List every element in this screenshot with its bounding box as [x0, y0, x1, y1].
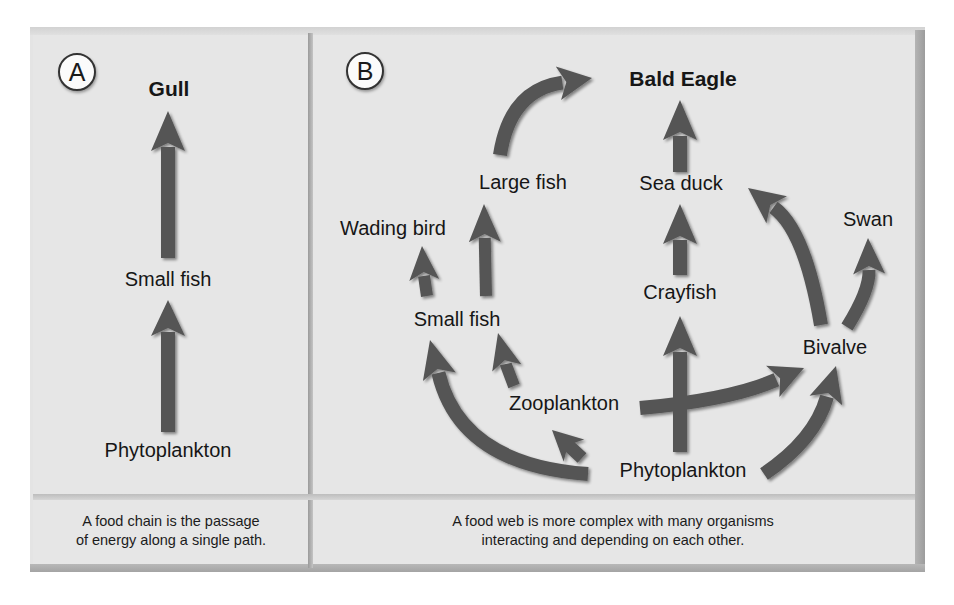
- panel-b-badge: B: [346, 52, 384, 90]
- arrow-zoo-to-smallfish-shaft: [506, 364, 514, 386]
- node-small-fish-b: Small fish: [414, 308, 501, 331]
- arrow-crayfish-to-seaduck-head: [663, 204, 697, 244]
- caption-b-line-1: A food web is more complex with many org…: [452, 512, 774, 531]
- arrow-phyto-to-zoo-shaft: [570, 447, 582, 458]
- node-large-fish: Large fish: [479, 171, 567, 194]
- caption-b-line-2: interacting and depending on each other.: [452, 531, 774, 550]
- arrow-phyto-to-crayfish-head: [663, 316, 697, 356]
- node-bivalve: Bivalve: [803, 336, 867, 359]
- node-swan: Swan: [843, 208, 893, 231]
- arrow-zoo-to-bivalve-shaft: [640, 380, 776, 408]
- arrow-bivalve-to-swan-head: [853, 238, 885, 274]
- caption-food-chain: A food chain is the passage of energy al…: [76, 512, 266, 550]
- node-phytoplankton-a: Phytoplankton: [105, 439, 232, 462]
- arrow-smallfish-to-largefish-head: [469, 204, 501, 242]
- caption-a-line-1: A food chain is the passage: [76, 512, 266, 531]
- arrow-smallfish-to-wadingbird-shaft: [424, 276, 427, 296]
- arrow-phyto-to-bivalve-shaft: [764, 397, 827, 474]
- node-bald-eagle: Bald Eagle: [629, 67, 736, 91]
- caption-a-line-2: of energy along a single path.: [76, 531, 266, 550]
- arrow-phyto-to-smallfish-b-shaft: [438, 373, 588, 474]
- node-gull: Gull: [149, 77, 190, 101]
- arrow-bivalve-to-seaduck-shaft: [773, 207, 821, 325]
- panel-a-badge-letter: A: [69, 58, 86, 87]
- node-sea-duck: Sea duck: [639, 172, 722, 195]
- arrow-phyto-to-smallfish-a-head: [151, 300, 185, 336]
- caption-food-web: A food web is more complex with many org…: [452, 512, 774, 550]
- node-small-fish-a: Small fish: [125, 268, 212, 291]
- panel-a-badge: A: [58, 53, 96, 91]
- arrow-seaduck-to-eagle-head: [663, 100, 697, 140]
- panel-b-badge-letter: B: [357, 57, 374, 86]
- node-wading-bird: Wading bird: [340, 217, 446, 240]
- node-phytoplankton-b: Phytoplankton: [620, 459, 747, 482]
- arrow-largefish-to-eagle-shaft: [500, 83, 562, 155]
- arrow-bivalve-to-swan-shaft: [847, 270, 869, 327]
- arrow-smallfish-to-largefish-shaft: [485, 238, 486, 296]
- node-zooplankton: Zooplankton: [509, 392, 619, 415]
- node-crayfish: Crayfish: [643, 281, 716, 304]
- arrow-smallfish-to-wadingbird-head: [409, 246, 439, 281]
- arrow-smallfish-to-gull-head: [151, 111, 185, 151]
